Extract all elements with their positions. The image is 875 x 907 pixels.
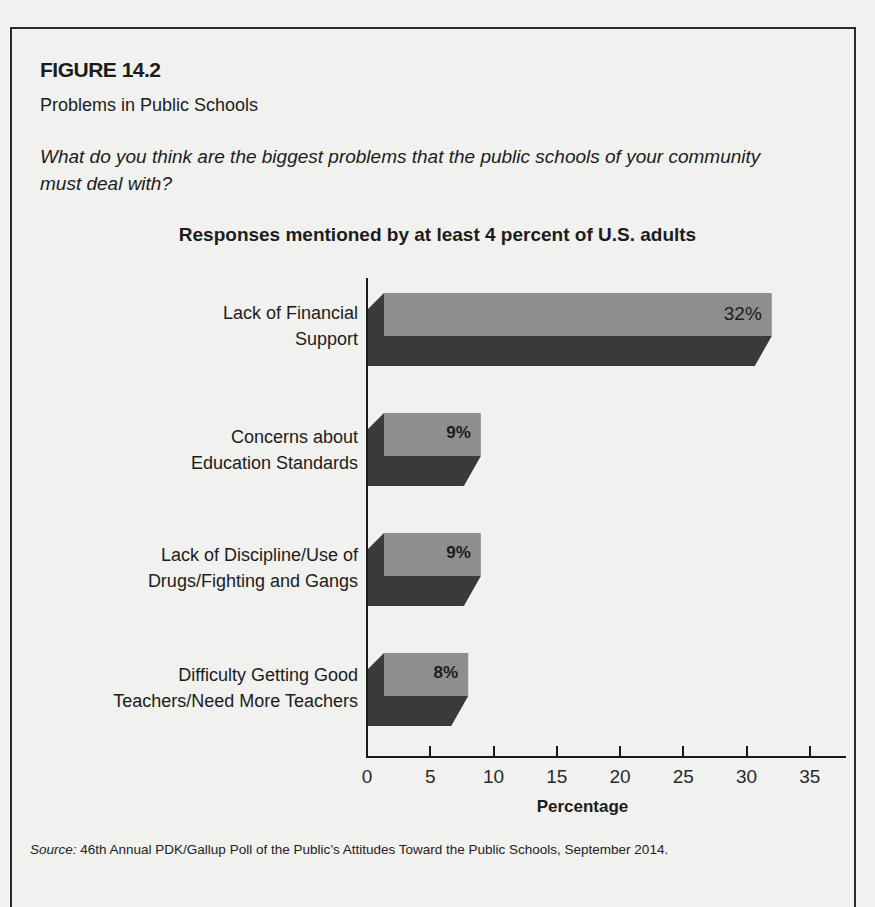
x-tick-mark: [809, 746, 811, 757]
value-label: 32%: [692, 303, 762, 325]
x-tick-label: 20: [600, 766, 640, 788]
x-tick-mark: [682, 746, 684, 757]
value-label: 8%: [388, 663, 458, 683]
x-tick-label: 15: [537, 766, 577, 788]
x-tick-label: 25: [663, 766, 703, 788]
value-label: 9%: [401, 543, 471, 563]
value-label: 9%: [401, 423, 471, 443]
x-tick-label: 35: [790, 766, 830, 788]
source-note: Source: 46th Annual PDK/Gallup Poll of t…: [30, 840, 850, 860]
x-axis: [366, 756, 846, 758]
source-label: Source:: [30, 842, 77, 857]
y-axis: [366, 278, 368, 758]
x-tick-label: 5: [410, 766, 450, 788]
x-axis-label: Percentage: [0, 797, 875, 817]
source-text: 46th Annual PDK/Gallup Poll of the Publi…: [77, 842, 669, 857]
x-tick-mark: [493, 746, 495, 757]
x-tick-mark: [619, 746, 621, 757]
x-tick-mark: [556, 746, 558, 757]
x-tick-label: 30: [727, 766, 767, 788]
x-tick-mark: [429, 746, 431, 757]
x-tick-mark: [746, 746, 748, 757]
x-tick-label: 10: [474, 766, 514, 788]
x-tick-label: 0: [347, 766, 387, 788]
